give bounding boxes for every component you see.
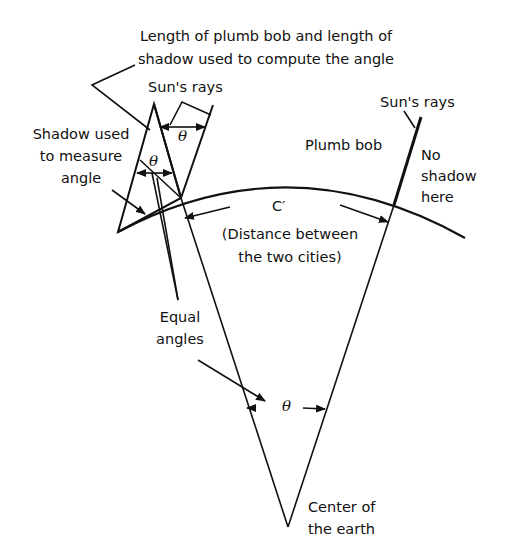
arc-length-label: C′: [272, 196, 285, 216]
sun-ray-left-2: [181, 105, 213, 198]
theta-lower-left: θ: [149, 152, 158, 170]
theta-upper: θ: [178, 127, 187, 145]
equal-angles-line1: Equal: [140, 307, 220, 327]
top-label-line1: Length of plumb bob and length of: [140, 26, 392, 46]
theta-center: θ: [282, 397, 291, 415]
center-earth-line1: Center of: [308, 497, 375, 517]
plumb-bob-label: Plumb bob: [305, 135, 382, 155]
sun-rays-left-label: Sun's rays: [148, 77, 223, 97]
distance-label-line1: (Distance between: [200, 224, 380, 244]
shadow-label-line1: Shadow used: [26, 124, 136, 144]
center-earth-line2: the earth: [308, 519, 375, 539]
diagram-canvas: [0, 0, 512, 557]
shadow-label-line2: to measure: [26, 146, 136, 166]
no-shadow-line1: No: [421, 145, 441, 165]
shadow-label-line3: angle: [26, 168, 136, 188]
distance-label-line2: the two cities): [200, 247, 380, 267]
plumb-bob-right: [394, 117, 421, 205]
equal-angles-line2: angles: [140, 329, 220, 349]
no-shadow-line3: here: [421, 187, 454, 207]
no-shadow-line2: shadow: [421, 166, 477, 186]
sun-rays-right-label: Sun's rays: [380, 92, 455, 112]
top-label-line2: shadow used to compute the angle: [138, 49, 394, 69]
